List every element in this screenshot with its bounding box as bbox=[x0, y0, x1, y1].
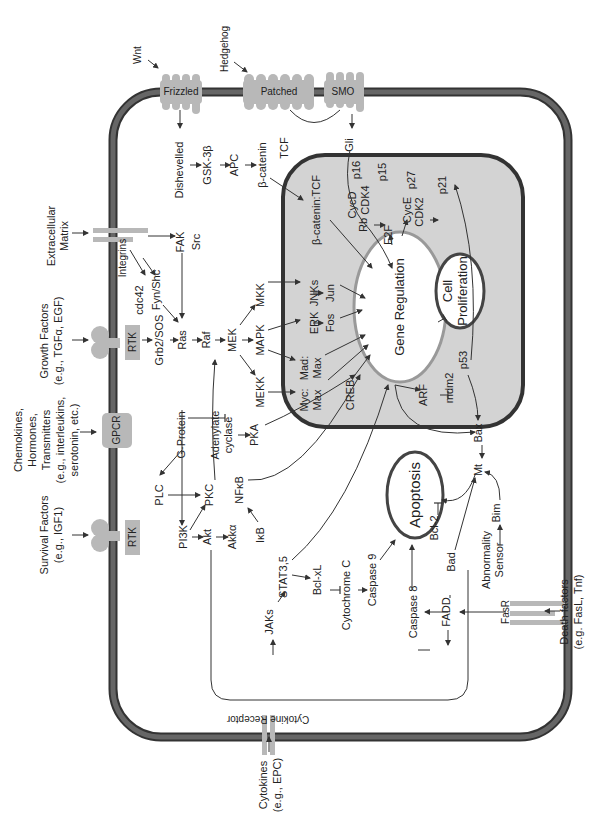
svg-text:CREB: CREB bbox=[344, 380, 356, 411]
svg-text:Rb: Rb bbox=[357, 218, 369, 232]
svg-text:Cytokines: Cytokines bbox=[257, 760, 269, 809]
svg-text:Patched: Patched bbox=[261, 86, 298, 97]
svg-text:CDK4: CDK4 bbox=[359, 185, 371, 214]
fasr-receptor: FasR bbox=[500, 600, 565, 625]
svg-text:Extracellular: Extracellular bbox=[45, 205, 57, 266]
svg-text:Caspase 8: Caspase 8 bbox=[407, 586, 419, 639]
signaling-diagram: Gene Regulation Cell Proliferation Apopt… bbox=[0, 0, 590, 813]
svg-text:Death factors: Death factors bbox=[558, 579, 570, 645]
svg-text:Max: Max bbox=[311, 389, 323, 410]
patched-receptor: Patched bbox=[243, 74, 314, 110]
svg-text:Bim: Bim bbox=[490, 504, 502, 523]
svg-text:MKK: MKK bbox=[254, 282, 266, 307]
svg-text:Bad: Bad bbox=[445, 552, 457, 572]
svg-text:IκB: IκB bbox=[254, 527, 266, 543]
svg-text:Growth Factors: Growth Factors bbox=[38, 303, 50, 379]
svg-text:JAKs: JAKs bbox=[263, 609, 275, 635]
svg-text:CycD: CycD bbox=[346, 192, 358, 219]
svg-text:GSK-3β: GSK-3β bbox=[201, 145, 213, 184]
gpcr-receptor: GPCR bbox=[102, 413, 132, 448]
svg-text:Abnormality: Abnormality bbox=[480, 530, 492, 589]
svg-text:p53: p53 bbox=[457, 351, 469, 369]
svg-text:Src: Src bbox=[190, 233, 202, 250]
svg-text:Bcl-2: Bcl-2 bbox=[428, 515, 440, 540]
svg-text:β-catenin:TCF: β-catenin:TCF bbox=[310, 175, 322, 245]
svg-text:Fyn/Shc: Fyn/Shc bbox=[150, 269, 162, 310]
svg-text:Fos: Fos bbox=[324, 313, 336, 332]
svg-text:Transmitters: Transmitters bbox=[40, 409, 52, 470]
svg-text:NFκB: NFκB bbox=[233, 476, 245, 504]
svg-text:mdm2: mdm2 bbox=[443, 373, 455, 404]
svg-text:Hedgehog: Hedgehog bbox=[219, 26, 230, 72]
svg-text:(e.g., EPC): (e.g., EPC) bbox=[271, 758, 283, 812]
svg-text:CDK2: CDK2 bbox=[413, 197, 425, 226]
integrins-receptor: Integrins bbox=[93, 228, 148, 277]
svg-text:GPCR: GPCR bbox=[111, 416, 122, 445]
svg-text:Matrix: Matrix bbox=[58, 221, 70, 251]
svg-text:Hormones,: Hormones, bbox=[26, 413, 38, 467]
svg-text:Frizzled: Frizzled bbox=[163, 86, 198, 97]
svg-text:Mad:: Mad: bbox=[298, 356, 310, 380]
svg-text:MEK: MEK bbox=[226, 327, 238, 352]
svg-text:p21: p21 bbox=[436, 176, 448, 194]
svg-text:ARF: ARF bbox=[417, 384, 429, 406]
svg-text:(e.g., IGF1): (e.g., IGF1) bbox=[52, 507, 64, 563]
cell-proliferation-label-2: Proliferation bbox=[455, 256, 470, 325]
frizzled-receptor: Frizzled bbox=[160, 74, 202, 114]
svg-text:STAT3,5: STAT3,5 bbox=[277, 556, 289, 598]
svg-text:cyclase: cyclase bbox=[222, 417, 234, 454]
apoptosis-label: Apoptosis bbox=[406, 462, 423, 528]
svg-text:SMO: SMO bbox=[332, 86, 355, 97]
svg-text:Survival Factors: Survival Factors bbox=[38, 495, 50, 574]
svg-text:p27: p27 bbox=[405, 171, 417, 189]
svg-text:Chemokines,: Chemokines, bbox=[12, 408, 24, 472]
svg-text:(e.g., interleukins,: (e.g., interleukins, bbox=[54, 397, 66, 484]
svg-text:Caspase 9: Caspase 9 bbox=[366, 554, 378, 607]
svg-text:(e.g. FasL, Tnf): (e.g. FasL, Tnf) bbox=[572, 575, 584, 650]
svg-text:Bax: Bax bbox=[472, 423, 484, 442]
svg-text:TCF: TCF bbox=[278, 137, 290, 159]
gene-regulation-label: Gene Regulation bbox=[392, 258, 407, 356]
svg-text:Max: Max bbox=[311, 357, 323, 378]
svg-text:Bcl-xL: Bcl-xL bbox=[311, 565, 323, 596]
svg-text:RTK: RTK bbox=[127, 527, 138, 547]
svg-text:PI3K: PI3K bbox=[177, 524, 189, 549]
svg-text:Mt: Mt bbox=[472, 464, 484, 476]
svg-text:Sensor: Sensor bbox=[493, 542, 505, 577]
smo-receptor: SMO bbox=[324, 72, 364, 112]
svg-text:FAK: FAK bbox=[174, 231, 186, 252]
svg-text:Cytokine Receptor: Cytokine Receptor bbox=[226, 714, 309, 725]
svg-text:Cytochrome C: Cytochrome C bbox=[340, 560, 352, 630]
svg-text:β-catenin: β-catenin bbox=[256, 142, 268, 187]
svg-text:MAPK: MAPK bbox=[254, 324, 266, 356]
svg-text:MEKK: MEKK bbox=[254, 376, 266, 408]
svg-text:serotonin, etc.): serotonin, etc.) bbox=[68, 404, 80, 477]
svg-text:Dishevelled: Dishevelled bbox=[173, 142, 185, 199]
svg-text:CycE: CycE bbox=[401, 197, 413, 223]
svg-text:Jun: Jun bbox=[324, 284, 336, 302]
svg-text:PKC: PKC bbox=[203, 484, 215, 507]
svg-text:Wnt: Wnt bbox=[132, 46, 143, 64]
svg-text:PLC: PLC bbox=[153, 484, 165, 505]
svg-text:Gli: Gli bbox=[343, 138, 355, 151]
svg-text:p16: p16 bbox=[350, 161, 362, 179]
svg-text:Integrins: Integrins bbox=[117, 239, 128, 277]
svg-text:p15: p15 bbox=[376, 163, 388, 181]
svg-text:RTK: RTK bbox=[127, 332, 138, 352]
cell-proliferation-label-1: Cell bbox=[440, 280, 455, 303]
svg-text:Grb2/SOS: Grb2/SOS bbox=[153, 315, 165, 366]
svg-text:cdc42: cdc42 bbox=[133, 285, 145, 314]
svg-text:(e.g., TGFα, EGF): (e.g., TGFα, EGF) bbox=[52, 297, 64, 386]
svg-text:E2F: E2F bbox=[382, 225, 394, 245]
